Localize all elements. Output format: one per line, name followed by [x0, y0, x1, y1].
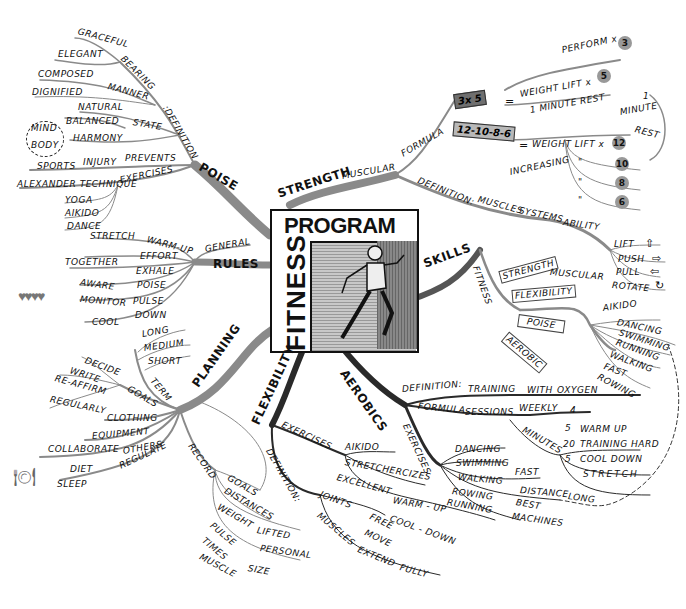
poise-mind: MIND — [31, 124, 57, 133]
formula-3x5-times: 5 — [597, 69, 611, 83]
aerobics-stretch: STRETCH — [583, 470, 639, 479]
aerobics-part-3-n: 5 — [565, 455, 571, 464]
poise-sports: SPORTS — [37, 162, 76, 171]
aerobics-dancing: DANCING — [455, 445, 501, 454]
ditto-1: " — [578, 158, 583, 167]
aerobics-cool-down: COOL DOWN — [580, 455, 642, 464]
arrow-left-icon: ⇦ — [650, 265, 659, 278]
planning-sleep: SLEEP — [57, 480, 87, 489]
aerobics-warm-up: WARM UP — [580, 425, 627, 434]
aerobics-part-2-n: 20 — [563, 440, 575, 449]
rotate-icon: ↻ — [655, 279, 664, 292]
rep-8: 8 — [615, 176, 629, 190]
aerobics-part-1-n: 5 — [565, 424, 571, 433]
poise-balanced: BALANCED — [66, 117, 119, 126]
aerobics-weekly-value: 4 — [570, 406, 576, 415]
rules-effort: EFFORT — [140, 252, 178, 261]
formula-2-weight-lift: WEIGHT LIFT x — [532, 140, 604, 149]
action-pull: PULL — [616, 268, 640, 277]
poise-dignified: DIGNIFIED — [32, 88, 83, 97]
rep-12: 12 — [612, 136, 626, 150]
rules-exhale: EXHALE — [136, 267, 174, 276]
aerobics-swimming: SWIMMING — [456, 459, 509, 468]
arrow-up-icon: ⇧ — [645, 237, 654, 250]
planning-collaborate: COLLABORATE — [48, 445, 119, 454]
rest-1: 1 — [643, 92, 649, 101]
rep-10: 10 — [615, 157, 629, 171]
formula-2-equals: = — [519, 140, 529, 151]
formula-perform-times: 3 — [618, 36, 632, 50]
rules-together: TOGETHER — [65, 258, 118, 267]
action-push: PUSH — [618, 255, 645, 264]
aerobics-sessions: SESSIONS — [465, 408, 514, 417]
rules-poise: POISE — [137, 281, 166, 290]
rules-pulse: PULSE — [133, 297, 164, 306]
branch-rules[interactable]: RULES — [213, 258, 259, 270]
poise-alexander: ALEXANDER TECHNIQUE — [17, 180, 137, 189]
poise-body: BODY — [31, 141, 59, 150]
rep-6: 6 — [615, 195, 629, 209]
running-man-icon — [312, 243, 412, 347]
aerobics-training-hard: TRAINING HARD — [580, 440, 659, 449]
plate-fork-knife-icon: 🍽 — [13, 466, 36, 488]
aerobics-oxygen: OXYGEN — [557, 386, 598, 395]
planning-clothing: CLOTHING — [107, 414, 158, 423]
aerobics-fast: FAST — [515, 468, 539, 477]
action-lift: LIFT — [614, 240, 634, 249]
poise-elegant: ELEGANT — [58, 50, 103, 59]
poise-composed: COMPOSED — [38, 70, 94, 79]
formula-3x5-equals: = — [505, 96, 515, 107]
rules-down: DOWN — [135, 311, 167, 320]
poise-harmony: HARMONY — [73, 134, 123, 143]
planning-diet: DIET — [70, 465, 93, 474]
ditto-2: " — [578, 178, 583, 187]
aerobics-weekly: WEEKLY — [519, 404, 558, 413]
poise-prevents: PREVENTS — [125, 154, 176, 163]
poise-injury: INJURY — [83, 158, 116, 167]
hearts-icon: ♥♥♥♥ — [18, 288, 43, 304]
title-fitness: FITNESS — [281, 234, 312, 351]
arrow-right-icon: ⇨ — [652, 252, 661, 265]
poise-aikido: AIKIDO — [65, 209, 99, 218]
poise-dance: DANCE — [67, 222, 101, 231]
poise-natural: NATURAL — [78, 103, 123, 112]
poise-yoga: YOGA — [65, 196, 93, 205]
aerobics-training: TRAINING — [468, 385, 516, 394]
title-box: PROGRAM FITNESS — [270, 209, 419, 353]
ditto-3: " — [578, 196, 583, 205]
flex-aikido: AIKIDO — [345, 443, 379, 452]
rules-stretch: STRETCH — [90, 232, 135, 241]
rules-cool: COOL — [92, 318, 119, 327]
planning-short: SHORT — [148, 357, 182, 366]
aerobics-with: WITH — [527, 386, 553, 395]
